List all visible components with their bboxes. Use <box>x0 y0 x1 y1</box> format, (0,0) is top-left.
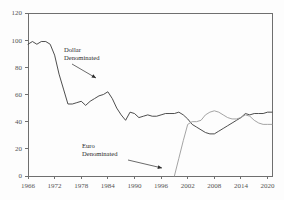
y-tick-label: 80 <box>15 64 23 72</box>
x-tick-label: 1966 <box>21 182 36 190</box>
x-tick-label: 2014 <box>234 182 249 190</box>
annotations-group: DollarDenominatedEuroDenominated <box>64 46 162 169</box>
x-tick-label: 1996 <box>154 182 169 190</box>
euro-denominated-annotation-line: Denominated <box>82 150 118 157</box>
y-tick-label: 40 <box>15 118 23 126</box>
euro-denominated-annotation-arrow-head <box>157 165 162 169</box>
x-tick-label: 1978 <box>74 182 89 190</box>
y-tick-label: 60 <box>15 91 23 99</box>
chart-container: 020406080100120 196619721978198419901996… <box>0 0 284 200</box>
x-tick-label: 2002 <box>181 182 196 190</box>
axes-group <box>28 13 272 176</box>
data-series-group <box>28 42 272 176</box>
y-tick-label: 120 <box>12 9 23 17</box>
x-tick-label: 1990 <box>127 182 142 190</box>
x-tick-label: 1984 <box>101 182 116 190</box>
line-chart-plot: 020406080100120 196619721978198419901996… <box>0 0 284 200</box>
dollar-denominated-annotation: DollarDenominated <box>64 46 100 78</box>
y-tick-label: 20 <box>15 145 23 153</box>
dollar-denominated-annotation-line: Denominated <box>64 54 100 61</box>
y-tick-label: 0 <box>19 172 23 180</box>
euro-denominated-annotation-line: Euro <box>82 142 96 149</box>
y-tick-label: 100 <box>12 37 23 45</box>
x-axis-ticks: 1966197219781984199019962002200820142020 <box>21 176 275 190</box>
euro-denominated-annotation-arrow-shaft <box>128 160 162 168</box>
axis-frame <box>28 13 272 176</box>
dollar-denominated-annotation-line: Dollar <box>64 46 82 53</box>
x-tick-label: 2020 <box>261 182 276 190</box>
x-tick-label: 2008 <box>207 182 222 190</box>
x-tick-label: 1972 <box>48 182 63 190</box>
euro-denominated-annotation: EuroDenominated <box>82 142 162 169</box>
y-axis-ticks: 020406080100120 <box>12 9 29 180</box>
